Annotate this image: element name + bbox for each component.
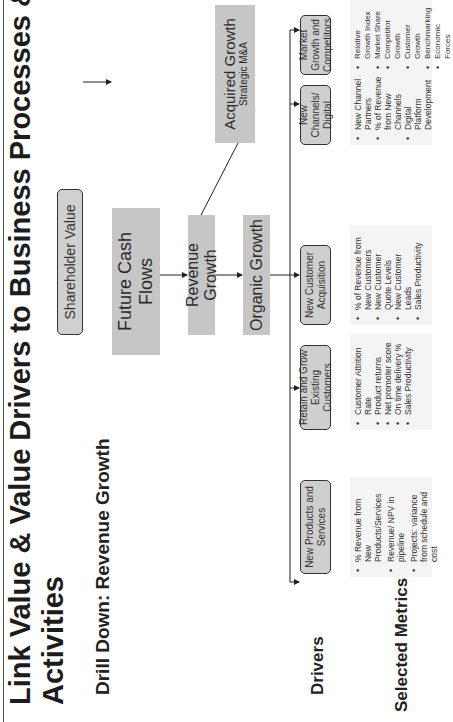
driver-label: New Channels/ Digital bbox=[298, 86, 334, 144]
metrics-new-products: % Revenue from New Products/Services Rev… bbox=[350, 477, 432, 577]
metric-item: Sales Productivity bbox=[403, 338, 413, 415]
driver-market-growth-box: Market Growth and Competitors bbox=[300, 15, 331, 75]
driver-new-channels-box: New Channels/ Digital bbox=[300, 85, 331, 145]
metric-item: Customer Growth bbox=[403, 4, 423, 59]
metric-item: Net promoter score bbox=[383, 338, 393, 415]
metric-item: Revenue/ NPV in pipeline bbox=[386, 481, 406, 562]
metrics-new-channels: New Channel Partners % of Revenue from N… bbox=[350, 69, 432, 145]
metric-item: % of Revenue from New Channels bbox=[373, 73, 403, 130]
revenue-growth-label: Revenue Growth bbox=[184, 215, 220, 335]
metric-item: Market Share bbox=[373, 4, 383, 59]
metrics-new-customer-acquisition: % of Revenue from New Customers New Cust… bbox=[350, 225, 432, 325]
metric-item: % of Revenue from New Customers bbox=[353, 229, 373, 310]
metric-item: New Channel Partners bbox=[353, 73, 373, 130]
metric-item: On time delivery % bbox=[393, 338, 403, 415]
shareholder-value-box: Shareholder Value bbox=[57, 189, 83, 335]
revenue-growth-box: Revenue Growth bbox=[188, 215, 215, 335]
drivers-section-label: Drivers bbox=[308, 636, 328, 695]
acquired-growth-label: Acquired Growth bbox=[221, 18, 238, 130]
metric-item: Projects: variance from schedule and cos… bbox=[409, 481, 439, 562]
metric-item: Relative Growth Index bbox=[353, 4, 373, 59]
metric-item: Economic Forces bbox=[433, 4, 453, 59]
metric-item: % Revenue from New Products/Services bbox=[353, 481, 383, 562]
metric-item: Product returns bbox=[373, 338, 383, 415]
acquired-growth-sublabel: Strategic M&A bbox=[238, 42, 249, 106]
driver-new-customer-acquisition-box: New Customer Acquisition bbox=[300, 245, 331, 325]
metric-item: New Customer Quote Levels bbox=[373, 229, 393, 310]
organic-growth-box: Organic Growth bbox=[243, 215, 270, 335]
metric-item: Customer Attrition Rate bbox=[353, 338, 373, 415]
drill-down-subtitle: Drill Down: Revenue Growth bbox=[92, 438, 114, 695]
metric-item: Sales Productivity bbox=[413, 229, 423, 310]
metrics-retain-customers: Customer Attrition Rate Product returns … bbox=[350, 334, 432, 430]
metric-item: Competitor Growth bbox=[383, 4, 403, 59]
future-cash-flows-box: Future Cash Flows bbox=[112, 208, 160, 355]
metric-item: New Customer Leads bbox=[393, 229, 413, 310]
driver-retain-customers-box: Retain and Grow Existing Customers bbox=[300, 345, 331, 430]
metric-item: Digital Platform Development bbox=[403, 73, 433, 130]
selected-metrics-section-label: Selected Metrics bbox=[392, 578, 412, 712]
slide-title: Link Value & Value Drivers to Business P… bbox=[4, 0, 70, 705]
driver-new-products-box: New Products and Services bbox=[300, 480, 331, 574]
metrics-market-growth: Relative Growth Index Market Share Compe… bbox=[350, 0, 432, 74]
title-line-1: Link Value & Value Drivers to Business P… bbox=[4, 0, 37, 705]
future-cash-flows-label: Future Cash Flows bbox=[115, 208, 157, 355]
shareholder-value-label: Shareholder Value bbox=[64, 205, 76, 320]
driver-label: New Products and Services bbox=[304, 481, 328, 573]
metric-item: Benchmarking bbox=[423, 4, 433, 59]
acquired-growth-box: Acquired Growth Strategic M&A bbox=[215, 5, 255, 143]
organic-growth-label: Organic Growth bbox=[248, 219, 266, 331]
driver-label: New Customer Acquisition bbox=[304, 246, 328, 324]
driver-label: Market Growth and Competitors bbox=[298, 16, 334, 74]
driver-label: Retain and Grow Existing Customers bbox=[298, 346, 334, 429]
title-line-2: Activities bbox=[37, 0, 70, 705]
